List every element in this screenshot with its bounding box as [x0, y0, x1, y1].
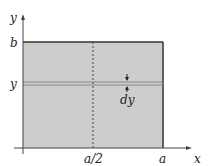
b-label: b — [10, 36, 18, 50]
y-axis-arrow-icon — [21, 14, 25, 20]
x-axis-arrow-icon — [186, 146, 192, 150]
a-label: a — [159, 152, 166, 166]
strip-y-label: y — [9, 77, 17, 91]
diagram: y b y dy a/2 a x — [0, 0, 214, 166]
y-axis-label: y — [9, 11, 17, 25]
dy-label: dy — [120, 93, 135, 107]
x-axis-label: x — [194, 152, 201, 166]
a-half-label: a/2 — [84, 152, 103, 166]
